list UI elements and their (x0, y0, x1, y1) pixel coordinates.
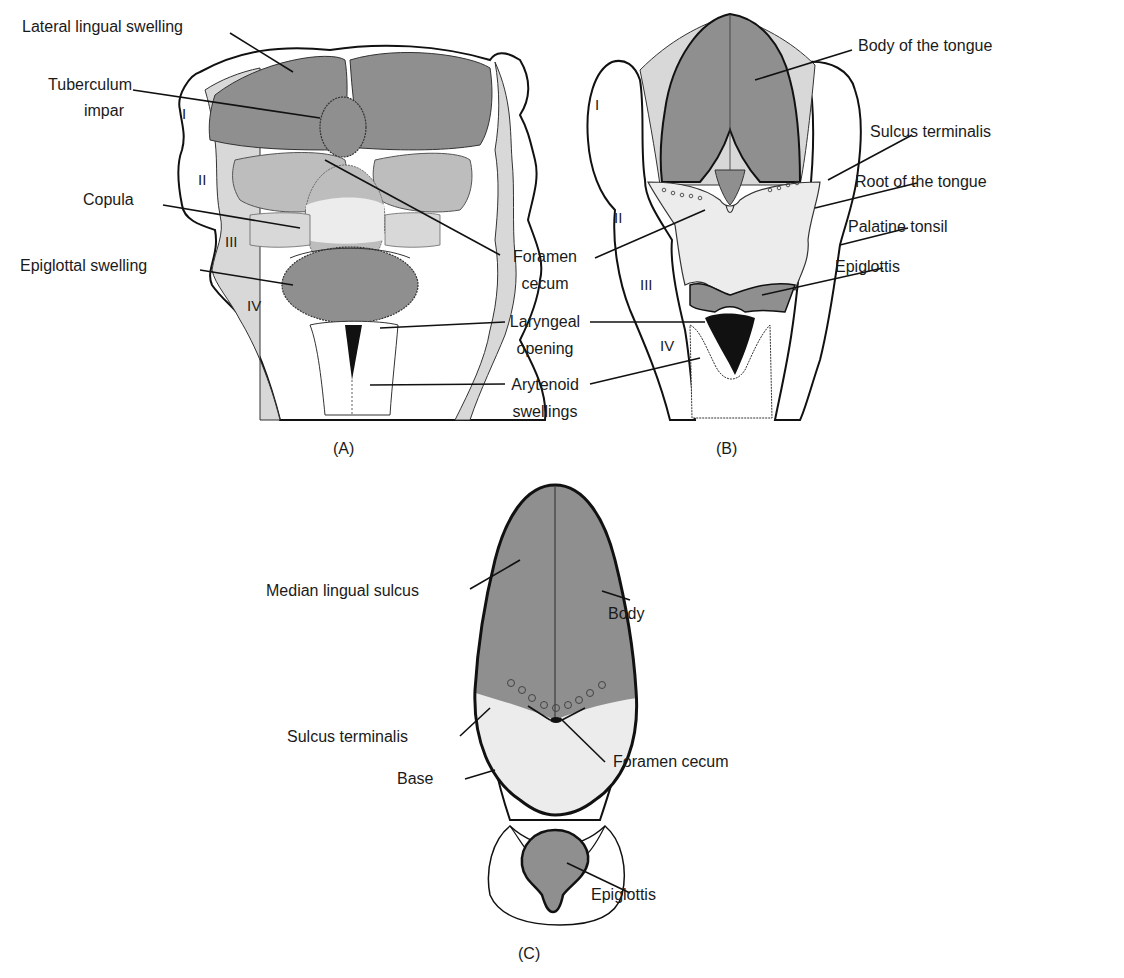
label-foramen-cecum-line2: cecum (505, 274, 585, 294)
label-laryngeal-opening-line2: opening (505, 339, 585, 359)
arch-numeral-a-1: I (182, 105, 186, 122)
label-sulcus-terminalis-b: Sulcus terminalis (870, 122, 991, 142)
label-copula: Copula (83, 190, 134, 210)
arch-numeral-b-2: II (614, 209, 622, 226)
label-foramen-cecum-c: Foramen cecum (613, 752, 729, 772)
label-sulcus-terminalis-c: Sulcus terminalis (287, 727, 408, 747)
caption-b: (B) (716, 440, 737, 458)
label-body-of-the-tongue: Body of the tongue (858, 36, 992, 56)
arch-numeral-a-2: II (198, 171, 206, 188)
arch-numeral-a-4: IV (247, 297, 261, 314)
label-foramen-cecum-line1: Foramen (505, 247, 585, 267)
label-tuberculum-impar-line2: impar (22, 101, 124, 121)
panel-b-drawing (587, 14, 860, 420)
label-arytenoid-swellings-line1: Arytenoid (505, 375, 585, 395)
arch-numeral-b-4: IV (660, 337, 674, 354)
label-epiglottis-b: Epiglottis (835, 257, 900, 277)
label-body-c: Body (608, 604, 644, 624)
label-epiglottal-swelling: Epiglottal swelling (20, 256, 147, 276)
label-median-lingual-sulcus: Median lingual sulcus (266, 581, 419, 601)
arch-numeral-b-1: I (595, 96, 599, 113)
label-lateral-lingual-swelling: Lateral lingual swelling (22, 17, 183, 37)
arch-numeral-b-3: III (640, 276, 653, 293)
label-epiglottis-c: Epiglottis (591, 885, 656, 905)
label-laryngeal-opening-line1: Laryngeal (505, 312, 585, 332)
caption-a: (A) (333, 440, 354, 458)
label-root-of-the-tongue: Root of the tongue (855, 172, 987, 192)
caption-c: (C) (518, 945, 540, 963)
label-tuberculum-impar-line1: Tuberculum (22, 75, 132, 95)
arch-numeral-a-3: III (225, 233, 238, 250)
label-arytenoid-swellings-line2: swellings (505, 402, 585, 422)
label-palatine-tonsil: Palatine tonsil (848, 217, 948, 237)
panel-c-drawing (460, 480, 660, 925)
figure-drawing (0, 0, 1124, 978)
label-base-c: Base (397, 769, 433, 789)
